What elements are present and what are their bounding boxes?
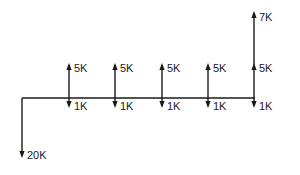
period-2-cash-flows: 5K1K (112, 62, 134, 112)
arrow-up-icon (205, 63, 210, 70)
outflow-label: 1K (167, 100, 181, 112)
cash-flow-diagram: 20K 5K1K5K1K5K1K5K1K5K1K7K (0, 0, 300, 175)
outflow-label: 1K (120, 100, 134, 112)
period-5-cash-flows: 5K1K7K (251, 11, 273, 112)
inflow-label: 5K (74, 62, 88, 74)
arrow-down-icon (19, 151, 24, 158)
inflow-label: 5K (167, 62, 181, 74)
initial-outflow-arrow: 20K (19, 98, 47, 161)
arrow-up-icon (251, 63, 256, 70)
outflow-label: 1K (74, 100, 88, 112)
inflow-label: 5K (120, 62, 134, 74)
inflow-label: 5K (213, 62, 227, 74)
arrow-down-icon (112, 101, 117, 108)
salvage-inflow-label: 7K (259, 11, 273, 23)
arrow-down-icon (205, 101, 210, 108)
period-3-cash-flows: 5K1K (159, 62, 181, 112)
initial-outflow-label: 20K (27, 149, 47, 161)
outflow-label: 1K (213, 100, 227, 112)
arrow-down-icon (66, 101, 71, 108)
outflow-label: 1K (259, 100, 273, 112)
arrow-up-icon (251, 11, 256, 18)
arrow-up-icon (112, 63, 117, 70)
arrow-down-icon (159, 101, 164, 108)
period-4-cash-flows: 5K1K (205, 62, 227, 112)
arrow-up-icon (159, 63, 164, 70)
diagram-svg: 20K 5K1K5K1K5K1K5K1K5K1K7K (0, 0, 300, 175)
arrow-up-icon (66, 63, 71, 70)
inflow-label: 5K (259, 62, 273, 74)
period-1-cash-flows: 5K1K (66, 62, 88, 112)
arrow-down-icon (251, 101, 256, 108)
